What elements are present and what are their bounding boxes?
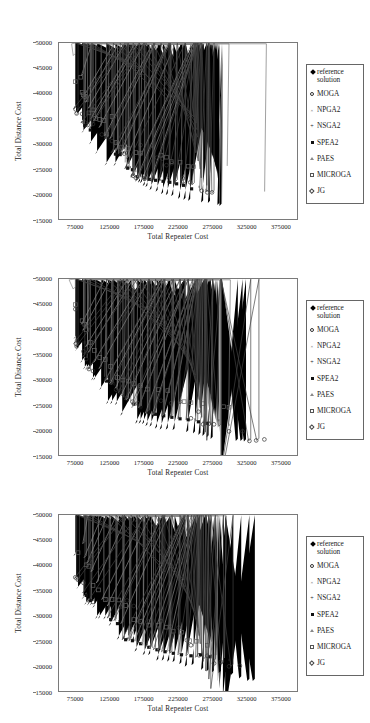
x-tick-label: 75000 [67, 223, 83, 231]
y-tick-label: 35000 [36, 587, 52, 594]
legend-entry[interactable]: +NSGA2 [309, 594, 362, 610]
y-tick-label: 30000 [36, 140, 52, 147]
x-tick-label: 275000 [202, 459, 222, 467]
legend-entry[interactable]: MOGA [309, 326, 362, 342]
x-tick-label: 325000 [237, 459, 257, 467]
legend-entry[interactable]: MICROGA [309, 171, 362, 187]
plot-canvas-2 [59, 279, 297, 455]
legend-entry[interactable]: reference solution [309, 304, 362, 326]
x-tick-label: 125000 [100, 695, 120, 703]
legend-label: PAES [317, 627, 334, 635]
diamond-open-icon [309, 188, 317, 196]
legend-label: MICROGA [317, 171, 351, 179]
figure-page: Total Distance Cost 50000450004000035000… [0, 0, 370, 723]
legend-entry[interactable]: ×NPGA2 [309, 342, 362, 358]
legend-entry[interactable]: MOGA [309, 90, 362, 106]
diamond-filled-icon [309, 305, 317, 313]
legend-label: PAES [317, 155, 334, 163]
legend-entry[interactable]: PAES [309, 155, 362, 171]
legend-entry[interactable]: JG [309, 423, 362, 439]
x-tick-label: 275000 [202, 695, 222, 703]
y-tick-labels-3: 5000045000400003500030000250002000015000 [20, 514, 56, 692]
x-tick-label: 125000 [100, 459, 120, 467]
y-tick-labels-1: 5000045000400003500030000250002000015000 [20, 42, 56, 220]
x-axis-title-3: Total Repeater Cost [58, 705, 298, 713]
legend-entry[interactable]: ×NPGA2 [309, 578, 362, 594]
diamond-filled-icon [309, 69, 317, 77]
plot-area-1[interactable] [58, 42, 298, 220]
legend-entry[interactable]: MOGA [309, 562, 362, 578]
y-tick-label: 20000 [36, 191, 52, 198]
legend-label: PAES [317, 391, 334, 399]
x-tick-label: 375000 [271, 695, 291, 703]
legend-entry[interactable]: SPEA2 [309, 611, 362, 627]
legend-label: SPEA2 [317, 611, 338, 619]
legend-entry[interactable]: MICROGA [309, 407, 362, 423]
square-filled-icon [309, 611, 317, 619]
x-tick-label: 175000 [134, 459, 154, 467]
y-tick-label: 45000 [36, 536, 52, 543]
legend-entry[interactable]: SPEA2 [309, 375, 362, 391]
legend-entry[interactable]: ×NPGA2 [309, 106, 362, 122]
legend-entry[interactable]: PAES [309, 391, 362, 407]
legend-label: MICROGA [317, 643, 351, 651]
triangle-icon [309, 627, 317, 635]
legend-label: SPEA2 [317, 139, 338, 147]
legend-1[interactable]: reference solutionMOGA×NPGA2+NSGA2SPEA2P… [306, 64, 364, 204]
legend-label: JG [317, 423, 325, 431]
legend-label: NPGA2 [317, 342, 340, 350]
legend-label: reference solution [317, 304, 344, 320]
y-tick-label: 30000 [36, 612, 52, 619]
cross-icon: × [309, 107, 317, 115]
diamond-open-icon [309, 660, 317, 668]
triangle-icon [309, 391, 317, 399]
y-tick-label: 20000 [36, 427, 52, 434]
legend-label: reference solution [317, 68, 344, 84]
x-tick-label: 175000 [134, 695, 154, 703]
legend-entry[interactable]: +NSGA2 [309, 358, 362, 374]
chart-block-1: Total Distance Cost 50000450004000035000… [0, 8, 370, 240]
y-tick-label: 25000 [36, 638, 52, 645]
square-open-icon [309, 171, 317, 179]
y-tick-label: 50000 [36, 39, 52, 46]
legend-entry[interactable]: +NSGA2 [309, 122, 362, 138]
legend-label: NSGA2 [317, 122, 340, 130]
legend-entry[interactable]: JG [309, 659, 362, 675]
plus-icon: + [309, 359, 317, 367]
x-tick-label: 375000 [271, 223, 291, 231]
triangle-icon [309, 155, 317, 163]
legend-entry[interactable]: SPEA2 [309, 139, 362, 155]
y-tick-label: 30000 [36, 376, 52, 383]
legend-3[interactable]: reference solutionMOGA×NPGA2+NSGA2SPEA2P… [306, 536, 364, 676]
y-tick-label: 50000 [36, 511, 52, 518]
y-tick-label: 40000 [36, 325, 52, 332]
legend-label: reference solution [317, 540, 344, 556]
y-tick-label: 45000 [36, 64, 52, 71]
chart-block-2: Total Distance Cost 50000450004000035000… [0, 244, 370, 476]
legend-entry[interactable]: PAES [309, 627, 362, 643]
x-tick-label: 325000 [237, 695, 257, 703]
x-tick-label: 225000 [168, 695, 188, 703]
x-tick-label: 175000 [134, 223, 154, 231]
legend-label: JG [317, 659, 325, 667]
circle-open-icon [309, 563, 317, 571]
y-tick-label: 35000 [36, 115, 52, 122]
x-axis-title-2: Total Repeater Cost [58, 469, 298, 477]
legend-entry[interactable]: reference solution [309, 68, 362, 90]
y-tick-label: 40000 [36, 89, 52, 96]
y-tick-label: 20000 [36, 663, 52, 670]
legend-2[interactable]: reference solutionMOGA×NPGA2+NSGA2SPEA2P… [306, 300, 364, 440]
square-filled-icon [309, 375, 317, 383]
legend-label: MOGA [317, 90, 339, 98]
legend-entry[interactable]: reference solution [309, 540, 362, 562]
x-tick-label: 225000 [168, 223, 188, 231]
plot-canvas-3 [59, 515, 297, 691]
x-tick-label: 325000 [237, 223, 257, 231]
legend-entry[interactable]: JG [309, 187, 362, 203]
plot-area-3[interactable] [58, 514, 298, 692]
y-tick-label: 50000 [36, 275, 52, 282]
plot-area-2[interactable] [58, 278, 298, 456]
legend-entry[interactable]: MICROGA [309, 643, 362, 659]
square-filled-icon [309, 139, 317, 147]
x-axis-title-1: Total Repeater Cost [58, 233, 298, 241]
